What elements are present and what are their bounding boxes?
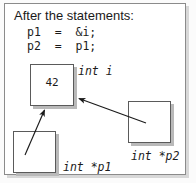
label-pointer-p1: int *p1 <box>63 160 111 174</box>
box-pointer-p2 <box>128 101 171 143</box>
box-pointer-p1 <box>13 131 56 173</box>
label-pointer-p2: int *p2 <box>131 149 179 163</box>
pointer-diagram-figure: After the statements: p1 = &i; p2 = p1; … <box>0 0 196 183</box>
label-variable-i: int i <box>78 64 113 78</box>
box-i-value: 42 <box>30 76 74 89</box>
code-line-p2: p2 = p1; <box>27 39 96 53</box>
caption-line: After the statements: <box>14 8 134 23</box>
code-line-p1: p1 = &i; <box>27 25 96 39</box>
